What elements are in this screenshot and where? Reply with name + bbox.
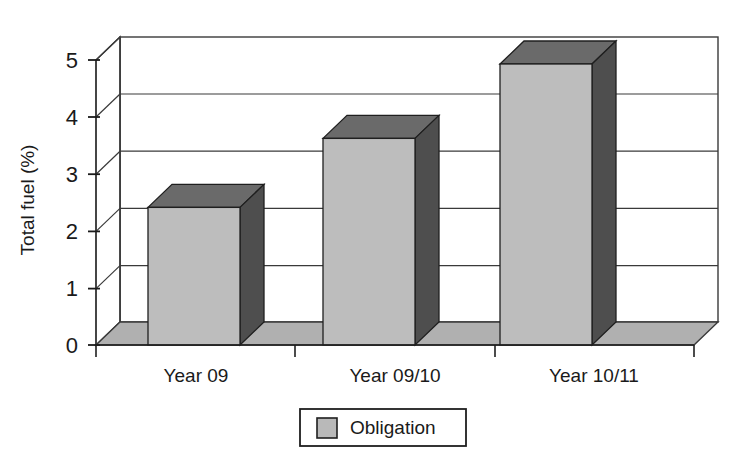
bar-group-year-09[interactable] — [148, 184, 264, 345]
bar-front-face-3 — [500, 64, 592, 345]
y-axis-title: Total fuel (%) — [17, 145, 38, 256]
category-label-year-09: Year 09 — [164, 365, 229, 386]
category-label-year-09-10: Year 09/10 — [349, 365, 440, 386]
legend-label-obligation: Obligation — [350, 417, 436, 438]
x-axis-category-labels: Year 09 Year 09/10 Year 10/11 — [164, 365, 639, 386]
bar-side-face-1 — [240, 184, 264, 345]
bar-front-face-1 — [148, 207, 240, 345]
y-tick-label-2: 2 — [66, 219, 78, 244]
bar-front-face-2 — [323, 138, 415, 345]
y-tick-label-1: 1 — [66, 276, 78, 301]
left-side-wall — [96, 37, 120, 345]
y-tick-label-0: 0 — [66, 333, 78, 358]
y-tick-label-3: 3 — [66, 162, 78, 187]
bar-group-year-09-10[interactable] — [323, 115, 439, 345]
chart-figure: 5 4 3 2 1 0 Total fuel (%) — [0, 0, 752, 461]
bar-side-face-2 — [415, 115, 439, 345]
x-axis-tick-marks — [96, 345, 694, 357]
bar-side-face-3 — [592, 41, 616, 345]
legend-swatch-obligation — [317, 418, 337, 438]
y-axis-tick-labels: 5 4 3 2 1 0 — [66, 48, 78, 358]
chart-legend[interactable]: Obligation — [300, 409, 466, 446]
bar-group-year-10-11[interactable] — [500, 41, 616, 345]
y-tick-label-4: 4 — [66, 105, 78, 130]
category-label-year-10-11: Year 10/11 — [549, 365, 639, 386]
bar-chart-3d: 5 4 3 2 1 0 Total fuel (%) — [0, 0, 752, 461]
y-tick-label-5: 5 — [66, 48, 78, 73]
